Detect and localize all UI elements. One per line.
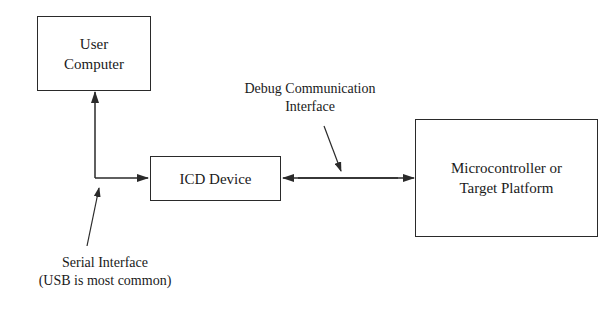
serial-interface-annotation: Serial Interface (USB is most common) (30, 254, 180, 290)
icd-device-node: ICD Device (150, 156, 281, 201)
debug-annotation-line2: Interface (285, 99, 335, 114)
serial-annotation-line1: Serial Interface (62, 255, 148, 270)
serial-pointer-arrow (87, 188, 99, 246)
user-computer-label-line2: Computer (64, 56, 124, 72)
debug-interface-annotation: Debug Communication Interface (220, 80, 400, 116)
user-computer-label: User Computer (64, 34, 124, 74)
user-computer-node: User Computer (37, 16, 151, 91)
icd-device-label: ICD Device (179, 169, 251, 189)
target-platform-label: Microcontroller or Target Platform (451, 158, 562, 198)
target-label-line1: Microcontroller or (451, 160, 562, 176)
target-platform-node: Microcontroller or Target Platform (415, 119, 598, 237)
serial-annotation-line2: (USB is most common) (39, 273, 172, 288)
serial-connection (95, 92, 148, 178)
target-label-line2: Target Platform (459, 180, 553, 196)
debug-annotation-line1: Debug Communication (244, 81, 375, 96)
user-computer-label-line1: User (80, 36, 108, 52)
debug-pointer-arrow (324, 126, 341, 171)
